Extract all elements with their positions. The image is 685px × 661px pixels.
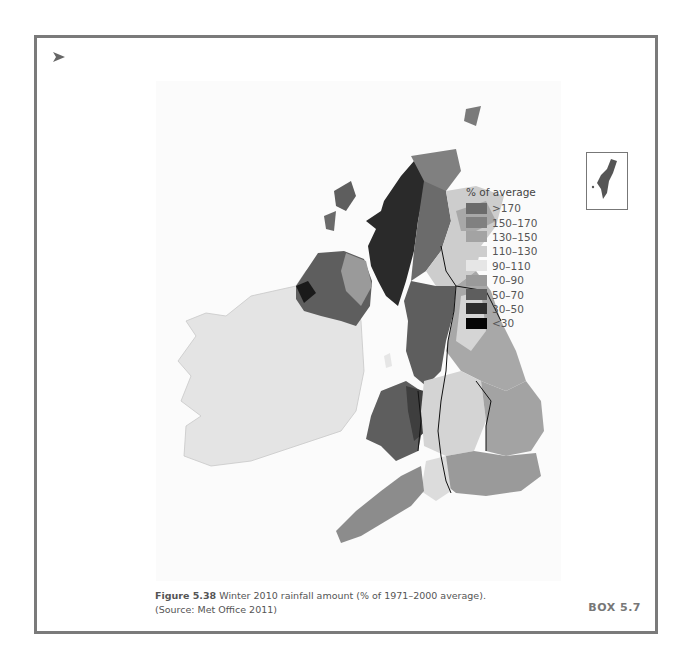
legend-item: 30–50 <box>466 302 537 316</box>
source-line: (Source: Met Office 2011) <box>155 603 486 617</box>
legend-swatch <box>466 275 487 286</box>
caption-text: Winter 2010 rainfall amount (% of 1971–2… <box>216 590 486 601</box>
legend-swatch <box>466 303 487 314</box>
map-legend: % of average >170 150–170 130–150 110–13… <box>466 186 537 331</box>
legend-swatch <box>466 217 487 228</box>
legend-item: 150–170 <box>466 215 537 229</box>
uk-rainfall-map: % of average >170 150–170 130–150 110–13… <box>156 81 561 581</box>
figure-box: % of average >170 150–170 130–150 110–13… <box>34 35 658 634</box>
legend-item: 130–150 <box>466 230 537 244</box>
legend-item: 50–70 <box>466 287 537 301</box>
south-west-region <box>336 466 424 543</box>
legend-item: 70–90 <box>466 273 537 287</box>
box-label: BOX 5.7 <box>588 601 641 614</box>
legend-swatch <box>466 260 487 271</box>
figure-caption: Figure 5.38 Winter 2010 rainfall amount … <box>155 589 486 617</box>
nw-england-region <box>404 281 456 386</box>
south-east-region <box>441 451 541 496</box>
east-england-region <box>481 381 544 456</box>
legend-swatch <box>466 318 487 329</box>
legend-item: >170 <box>466 201 537 215</box>
legend-swatch <box>466 203 487 214</box>
midlands-region <box>421 371 486 456</box>
legend-item: 90–110 <box>466 259 537 273</box>
legend-swatch <box>466 246 487 257</box>
shetland-inset <box>586 152 628 210</box>
legend-item: <30 <box>466 316 537 330</box>
figure-number: Figure 5.38 <box>155 590 216 601</box>
legend-title: % of average <box>466 186 537 198</box>
legend-swatch <box>466 231 487 242</box>
legend-item: 110–130 <box>466 244 537 258</box>
legend-swatch <box>466 289 487 300</box>
